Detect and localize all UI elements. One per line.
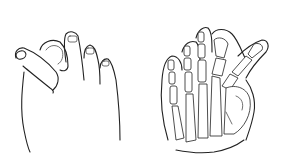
toe-5-icon bbox=[100, 59, 120, 140]
foot-outline-a bbox=[22, 72, 30, 152]
curled-toe-icon bbox=[40, 40, 68, 70]
foot-illustration-a bbox=[0, 0, 301, 165]
foot-skeleton-b bbox=[161, 27, 268, 152]
toe-4-icon bbox=[84, 45, 100, 84]
big-toe-icon bbox=[15, 48, 58, 93]
